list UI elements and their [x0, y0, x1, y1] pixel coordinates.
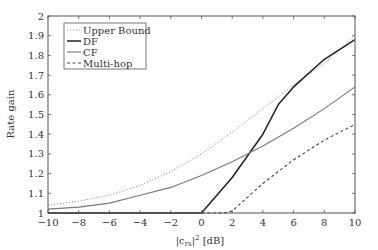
legend-label: Multi-hop	[83, 58, 132, 69]
legend-label: DF	[83, 36, 98, 47]
x-tick-label: 2	[229, 217, 235, 228]
x-tick-label: −6	[102, 217, 117, 228]
rate-gain-chart: −10−8−6−4−20246810 11.11.21.31.41.51.61.…	[0, 0, 378, 250]
x-tick-label: −10	[37, 217, 58, 228]
series-line-cf	[48, 87, 355, 209]
y-tick-label: 1	[38, 208, 44, 219]
x-tick-label: 4	[260, 217, 266, 228]
y-tick-label: 1.7	[28, 70, 44, 81]
x-tick-label: 6	[290, 217, 296, 228]
y-tick-label: 1.9	[28, 30, 44, 41]
legend: Upper BoundDFCFMulti-hop	[64, 23, 151, 69]
y-tick-label: 1.8	[28, 50, 44, 61]
x-tick-label: 10	[349, 217, 362, 228]
series-line-multi-hop	[48, 124, 355, 213]
legend-label: Upper Bound	[83, 25, 151, 36]
y-tick-label: 1.4	[28, 129, 44, 140]
x-tick-label: −8	[71, 217, 86, 228]
x-tick-label: 8	[321, 217, 327, 228]
x-tick-label: −4	[133, 217, 148, 228]
y-axis-label: Rate gain	[5, 89, 16, 138]
legend-label: CF	[83, 47, 98, 58]
x-tick-label: −2	[163, 217, 178, 228]
y-tick-label: 1.1	[28, 188, 44, 199]
x-axis-label: |crs|2 [dB]	[176, 234, 225, 248]
y-tick-label: 1.2	[28, 168, 44, 179]
x-tick-label: 0	[198, 217, 204, 228]
y-tick-label: 1.3	[28, 148, 44, 159]
y-tick-label: 1.5	[28, 109, 44, 120]
y-tick-label: 1.6	[28, 89, 44, 100]
y-tick-label: 2	[38, 11, 44, 22]
